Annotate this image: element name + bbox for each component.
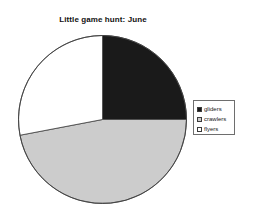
pie-slice-crawlers[interactable] [20, 120, 187, 204]
pie-chart-screenshot: Little game hunt: June gliders crawlers … [0, 0, 264, 223]
pie-slice-flyers[interactable] [19, 36, 103, 136]
legend-swatch-icon [197, 117, 202, 122]
legend-item-gliders[interactable]: gliders [197, 104, 232, 114]
legend-label: crawlers [204, 116, 226, 123]
chart-legend: gliders crawlers flyers [193, 100, 235, 135]
legend-swatch-icon [197, 107, 202, 112]
pie-chart-plot-area [18, 35, 187, 204]
legend-swatch-icon [197, 127, 202, 132]
legend-item-flyers[interactable]: flyers [197, 124, 232, 134]
chart-title: Little game hunt: June [0, 15, 206, 25]
legend-label: flyers [204, 126, 218, 133]
pie-slice-gliders[interactable] [103, 36, 187, 120]
pie-svg [18, 35, 187, 204]
legend-label: gliders [204, 106, 222, 113]
legend-item-crawlers[interactable]: crawlers [197, 114, 232, 124]
pie-slices [19, 36, 187, 204]
